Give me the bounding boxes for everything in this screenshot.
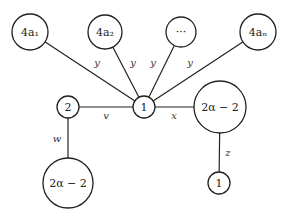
edge-label: y [149,57,156,68]
edge-label: y [93,57,100,68]
edge-a1-center [30,32,144,107]
edge-label: z [224,147,231,158]
node-bottomright: 1 [208,172,230,194]
node-label: 2α − 2 [49,177,87,190]
node-label: 2α − 2 [201,101,239,114]
edge-label: w [53,133,62,144]
edge-label: x [171,110,177,121]
node-label: 4a₂ [96,26,114,39]
graph-svg: yyyyvxwz 4a₁4a₂···4aₙ212α − 22α − 21 [0,0,287,219]
edge-label: v [103,110,109,121]
node-label: 1 [141,101,148,114]
node-center: 1 [133,96,155,118]
node-label: 1 [216,177,223,190]
graph-diagram: yyyyvxwz 4a₁4a₂···4aₙ212α − 22α − 21 [0,0,287,219]
node-label: ··· [176,26,187,39]
node-label: 4aₙ [249,26,268,39]
node-bottomleft: 2α − 2 [43,158,93,208]
node-an: 4aₙ [240,14,276,50]
nodes-layer: 4a₁4a₂···4aₙ212α − 22α − 21 [12,14,276,208]
node-dots: ··· [166,17,196,47]
node-label: 4a₁ [21,26,39,39]
node-right: 2α − 2 [194,81,246,133]
edge-label: y [186,57,193,68]
node-label: 2 [65,101,72,114]
edge-label: y [129,57,136,68]
node-a1: 4a₁ [12,14,48,50]
node-a2: 4a₂ [88,15,122,49]
node-two: 2 [57,96,79,118]
